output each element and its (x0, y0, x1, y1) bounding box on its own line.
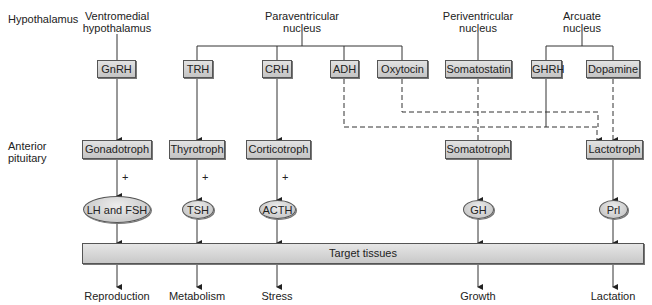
hormone-trh: TRH (183, 60, 213, 78)
hormone-gh: GH (463, 200, 494, 219)
stimulation-plus: + (282, 172, 288, 183)
cell-somatotroph: Somatotroph (445, 140, 511, 159)
cell-thyrotroph: Thyrotroph (169, 140, 225, 159)
nucleus-line1: Ventromedial (77, 10, 157, 22)
hormone-somatostatin: Somatostatin (445, 60, 512, 78)
nucleus-line2: nucleus (433, 22, 523, 34)
row-label-anterior: Anterior (8, 140, 47, 152)
nucleus-line1: Periventricular (433, 10, 523, 22)
effect-reproduction: Reproduction (77, 290, 157, 302)
hormone-lh-fsh: LH and FSH (83, 196, 151, 223)
stimulation-plus: + (202, 172, 208, 183)
effect-lactation: Lactation (583, 290, 643, 302)
nucleus-paraventricular: Paraventricular nucleus (257, 10, 347, 34)
effect-growth: Growth (448, 290, 508, 302)
hormone-tsh: TSH (182, 200, 214, 219)
hormone-dopamine: Dopamine (586, 60, 640, 78)
nucleus-line2: nucleus (552, 22, 612, 34)
effect-metabolism: Metabolism (162, 290, 232, 302)
hormone-oxytocin: Oxytocin (377, 60, 428, 78)
hormone-prl: Prl (599, 200, 628, 219)
nucleus-line1: Paraventricular (257, 10, 347, 22)
stimulation-plus: + (122, 172, 128, 183)
effect-stress: Stress (247, 290, 307, 302)
nucleus-line2: nucleus (257, 22, 347, 34)
hormone-acth: ACTH (259, 200, 296, 219)
target-tissues-bar: Target tissues (82, 243, 644, 264)
hormone-crh: CRH (262, 60, 292, 78)
row-label-hypothalamus: Hypothalamus (8, 13, 78, 25)
hormone-ghrh: GHRH (531, 60, 562, 78)
nucleus-periventricular: Periventricular nucleus (433, 10, 523, 34)
cell-lactotroph: Lactotroph (586, 140, 643, 159)
hormone-adh: ADH (330, 60, 359, 78)
nucleus-line2: hypothalamus (77, 22, 157, 34)
hormone-gnrh: GnRH (97, 60, 136, 78)
cell-corticotroph: Corticotroph (246, 140, 311, 159)
nucleus-arcuate: Arcuate nucleus (552, 10, 612, 34)
row-label-pituitary: pituitary (8, 152, 47, 164)
cell-gonadotroph: Gonadotroph (82, 140, 152, 159)
nucleus-ventromedial: Ventromedial hypothalamus (77, 10, 157, 34)
nucleus-line1: Arcuate (552, 10, 612, 22)
